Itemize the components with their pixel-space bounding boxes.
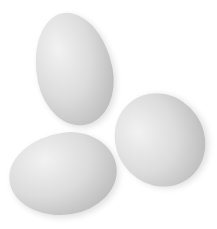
top-egg <box>25 5 123 132</box>
bottom-egg <box>4 126 122 222</box>
right-egg <box>96 75 217 204</box>
scene: Three white/grey eggs on a white backgro… <box>0 0 217 229</box>
